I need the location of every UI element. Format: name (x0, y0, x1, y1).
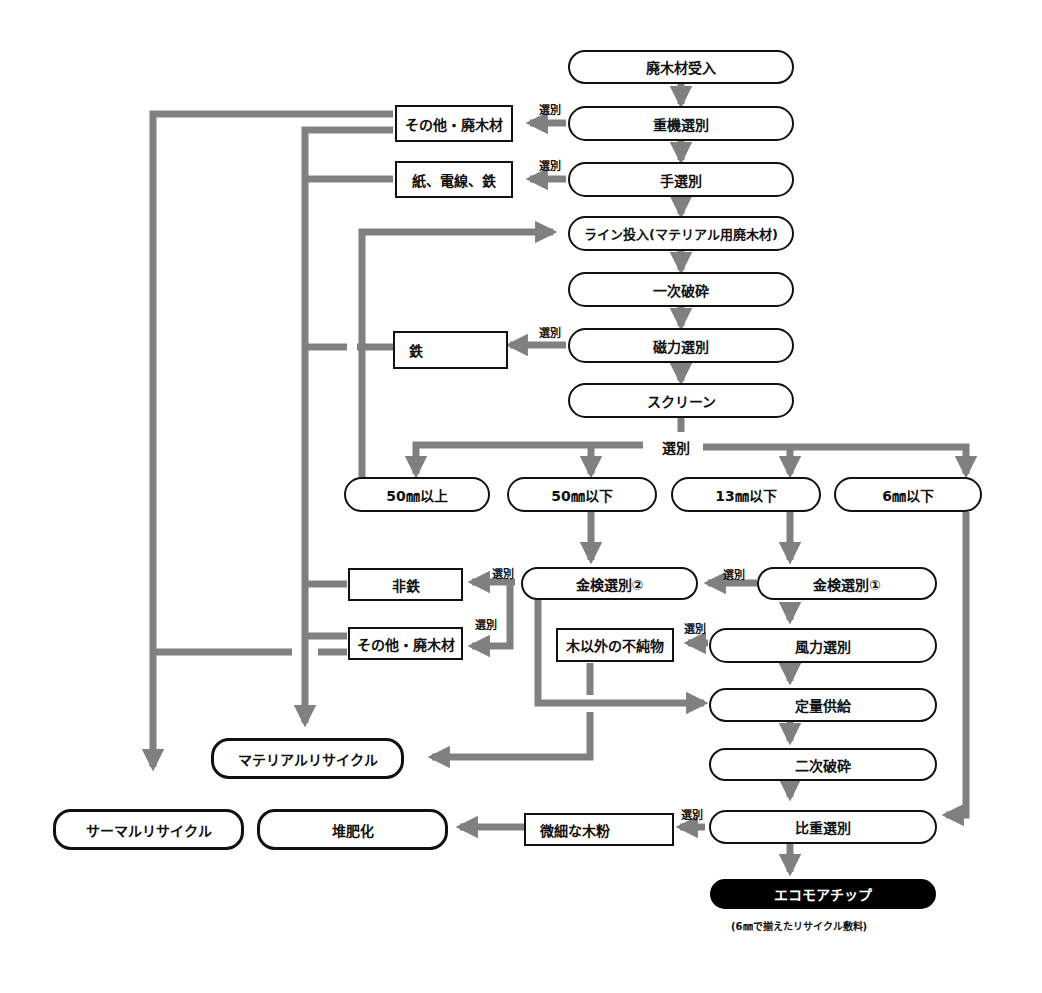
edge-label-sort: 選別 (539, 324, 561, 340)
node-under-13mm: 13㎜以下 (671, 477, 821, 512)
reject-label: その他・廃木材 (357, 634, 455, 654)
output-composting: 堆肥化 (257, 809, 448, 850)
node-gravity-sort: 比重選別 (709, 810, 937, 844)
reject-label: 非鉄 (392, 575, 420, 595)
reject-other-waste-wood-1: その他・廃木材 (395, 105, 513, 142)
node-label: 比重選別 (795, 817, 851, 837)
node-label: 二次破砕 (795, 755, 851, 775)
node-wind-sort: 風力選別 (709, 628, 937, 663)
node-metal-detect-2: 金検選別② (521, 567, 698, 600)
output-label: マテリアルリサイクル (238, 749, 378, 769)
reject-non-wood-impurities: 木以外の不純物 (556, 628, 674, 662)
node-screen: スクリーン (568, 383, 794, 418)
node-label: スクリーン (647, 391, 716, 411)
node-magnetic-sort: 磁力選別 (568, 328, 794, 363)
edge-label-sort: 選別 (475, 616, 497, 632)
node-label: 磁力選別 (653, 336, 709, 356)
node-label: 定量供給 (795, 695, 851, 715)
output-label: 堆肥化 (332, 820, 374, 840)
node-label: 金検選別① (813, 574, 881, 594)
edge-label-sort: 選別 (492, 565, 514, 581)
reject-iron: 鉄 (393, 331, 508, 369)
node-hand-sort: 手選別 (568, 162, 794, 197)
reject-paper-wire-iron: 紙、電線、鉄 (395, 161, 513, 198)
node-label: 重機選別 (653, 114, 709, 134)
edge-label-sort: 選別 (684, 620, 706, 636)
reject-label: 鉄 (409, 340, 423, 360)
node-label: 13㎜以下 (715, 485, 776, 505)
reject-other-waste-wood-2: その他・廃木材 (348, 627, 463, 660)
node-under-6mm: 6㎜以下 (834, 477, 982, 512)
node-label: 50㎜以上 (386, 485, 447, 505)
node-label: 金検選別② (576, 574, 644, 594)
output-thermal-recycle: サーマルリサイクル (53, 809, 244, 850)
node-receive: 廃木材受入 (568, 50, 794, 84)
node-secondary-crush: 二次破砕 (709, 748, 937, 781)
node-heavy-sort: 重機選別 (568, 106, 794, 141)
node-metal-detect-1: 金検選別① (757, 567, 937, 600)
node-under-50mm: 50㎜以下 (507, 477, 657, 512)
final-product-label: エコモアチップ (774, 884, 872, 904)
node-label: ライン投入(マテリアル用廃木材) (584, 224, 778, 243)
reject-label: 微細な木粉 (540, 820, 610, 840)
node-label: 6㎜以下 (882, 485, 934, 505)
reject-label: その他・廃木材 (405, 114, 503, 134)
reject-label: 紙、電線、鉄 (412, 170, 496, 190)
screen-split-label: 選別 (656, 437, 696, 457)
node-final-product: エコモアチップ (710, 879, 936, 909)
node-fixed-feed: 定量供給 (709, 688, 937, 722)
node-label: 50㎜以下 (551, 485, 612, 505)
output-material-recycle: マテリアルリサイクル (211, 738, 404, 779)
node-label: 廃木材受入 (646, 57, 716, 77)
reject-non-ferrous: 非鉄 (348, 568, 463, 601)
reject-fine-wood-powder: 微細な木粉 (524, 813, 674, 846)
node-label: 風力選別 (795, 636, 851, 656)
node-over-50mm: 50㎜以上 (344, 477, 490, 512)
edge-label-sort: 選別 (539, 157, 561, 173)
reject-label: 木以外の不純物 (566, 635, 664, 655)
edge-label-sort: 選別 (723, 566, 745, 582)
node-label: 手選別 (660, 170, 702, 190)
node-primary-crush: 一次破砕 (568, 272, 794, 307)
edge-label-sort: 選別 (539, 101, 561, 117)
output-label: サーマルリサイクル (86, 820, 212, 840)
final-product-caption: (6㎜で揃えたリサイクル敷料) (731, 918, 867, 933)
edge-label-sort: 選別 (681, 806, 703, 822)
node-line-input: ライン投入(マテリアル用廃木材) (568, 216, 794, 251)
node-label: 一次破砕 (653, 280, 709, 300)
